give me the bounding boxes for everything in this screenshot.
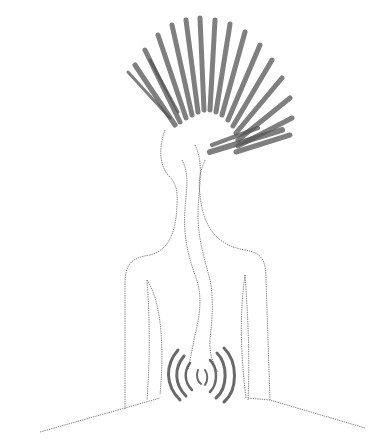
figure-outline <box>125 130 270 410</box>
ground-lines <box>40 398 365 432</box>
concentric-arcs <box>168 348 234 402</box>
wavy-spine-channel <box>182 145 218 372</box>
radiating-head-strokes <box>128 18 292 152</box>
sketch-canvas <box>0 0 387 445</box>
figure-sketch <box>0 0 387 445</box>
